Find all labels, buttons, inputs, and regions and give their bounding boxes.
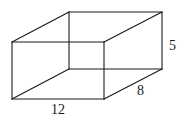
edge-connect-bottom-right bbox=[104, 69, 162, 99]
label-height: 5 bbox=[169, 39, 176, 53]
prism-wireframe bbox=[0, 0, 189, 123]
edge-connect-top-left bbox=[12, 12, 69, 42]
edge-connect-bottom-left bbox=[12, 69, 69, 99]
label-length: 12 bbox=[51, 103, 65, 117]
edge-connect-top-right bbox=[104, 12, 162, 42]
prism-diagram: 5 8 12 bbox=[0, 0, 189, 123]
label-width: 8 bbox=[137, 84, 144, 98]
